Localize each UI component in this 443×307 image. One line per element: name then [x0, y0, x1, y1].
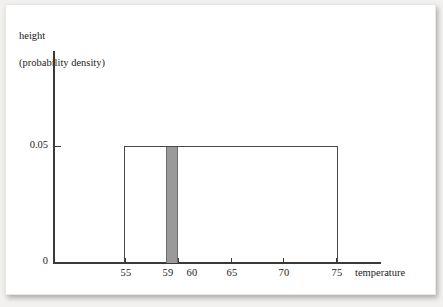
y-tick-label-0: 0: [14, 255, 48, 266]
y-axis-line: [53, 51, 55, 264]
y-axis-title: height (probability density): [19, 15, 105, 69]
x-tick-label-60: 60: [179, 267, 205, 278]
x-axis-title: temperature: [355, 267, 405, 278]
shaded-probability-band: [166, 147, 178, 263]
x-tick-label-55: 55: [113, 267, 139, 278]
y-tick-mark-0.05: [55, 146, 61, 147]
y-tick-label-0.05: 0.05: [14, 139, 48, 150]
figure-card: height (probability density) 0.05 0 55 5…: [5, 4, 436, 295]
x-tick-label-59: 59: [155, 267, 181, 278]
probability-density-chart: height (probability density) 0.05 0 55 5…: [6, 5, 435, 294]
x-tick-label-70: 70: [271, 267, 297, 278]
x-tick-label-65: 65: [219, 267, 245, 278]
y-axis-title-line2: (probability density): [19, 57, 105, 68]
uniform-density-rectangle: [124, 146, 338, 263]
y-axis-title-line1: height: [19, 30, 45, 41]
x-tick-label-75: 75: [324, 267, 350, 278]
